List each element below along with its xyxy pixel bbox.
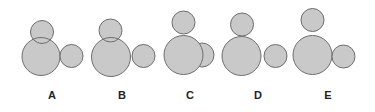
circle-arrangement-diagram: ABCDE	[0, 0, 375, 112]
option-label: C	[186, 89, 194, 101]
option-b: B	[92, 19, 156, 101]
option-a: A	[22, 21, 83, 102]
top-circle	[172, 11, 195, 34]
large-circle	[222, 37, 261, 76]
option-label: E	[324, 89, 331, 101]
option-c: C	[164, 11, 214, 101]
large-circle	[293, 36, 332, 75]
option-label: B	[118, 89, 126, 101]
right-circle	[264, 45, 287, 68]
right-circle	[132, 45, 155, 68]
large-circle	[92, 38, 131, 77]
option-e: E	[293, 9, 355, 102]
option-label: A	[48, 89, 56, 101]
option-label: D	[254, 89, 262, 101]
right-circle	[60, 45, 83, 68]
right-circle	[332, 45, 355, 68]
top-circle	[231, 13, 254, 36]
top-circle	[301, 9, 324, 32]
large-circle	[164, 36, 203, 75]
option-d: D	[222, 13, 287, 101]
